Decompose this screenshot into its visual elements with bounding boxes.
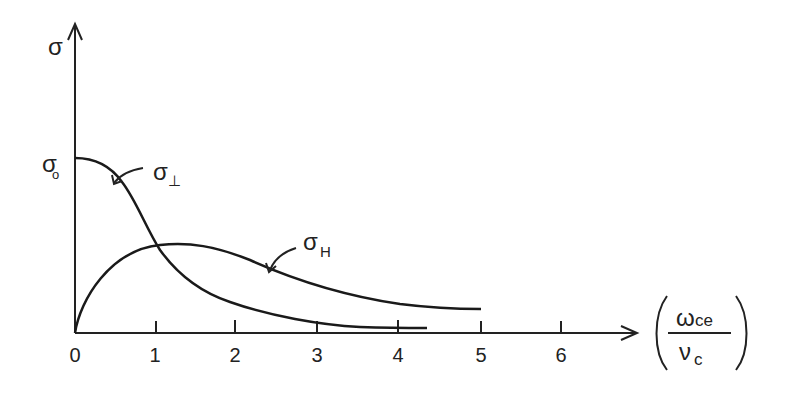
sigma-perp-curve [75,158,427,328]
y-axis [68,24,82,333]
x-axis [75,326,637,340]
x-tick-label: 4 [392,344,403,366]
x-label-denominator: ν [679,338,691,365]
x-tick-label: 5 [475,344,486,366]
left-paren [657,296,668,370]
x-tick-label: 6 [555,344,566,366]
x-tick-labels: 0 1 2 3 4 5 6 [69,344,566,366]
x-label-denominator-sub: c [694,350,703,369]
x-label-numerator-sub: ce [695,311,713,330]
x-tick-label: 0 [69,344,80,366]
sigma-perp-label: σ [153,158,168,185]
x-tick-label: 1 [149,344,160,366]
sigma-h-label: σ [303,228,318,255]
x-tick-label: 3 [311,344,322,366]
svg-text:o: o [52,167,59,182]
sigma-h-subscript: H [320,243,331,260]
sigma-zero-label: σ o [42,150,59,182]
chart-canvas: 0 1 2 3 4 5 6 σ σ o σ ⊥ σ H ω ce ν c [0,0,785,393]
y-axis-label: σ [48,33,63,60]
x-tick-label: 2 [229,344,240,366]
x-label-numerator: ω [676,304,695,331]
right-paren [736,296,747,370]
sigma-h-annotation: σ H [266,228,331,272]
sigma-perp-subscript: ⊥ [168,172,181,189]
x-axis-label: ω ce ν c [657,296,747,370]
